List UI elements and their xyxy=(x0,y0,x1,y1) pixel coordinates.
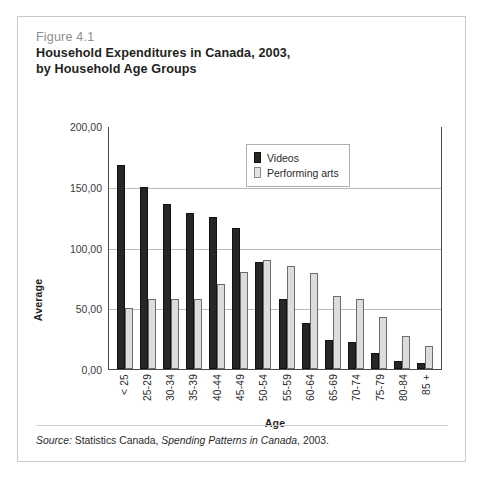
bar-performing-arts xyxy=(310,273,318,369)
bar-videos xyxy=(255,262,263,369)
source-divider xyxy=(36,425,448,426)
bar-videos xyxy=(140,187,148,369)
x-axis-tick-labels: < 2525-2930-3435-3940-4445-4950-5455-596… xyxy=(108,372,442,420)
bar-group xyxy=(368,127,391,369)
bar-performing-arts xyxy=(356,299,364,369)
y-axis-tick: 50,00 xyxy=(76,303,102,315)
x-axis-tick-label: 45-49 xyxy=(235,374,246,401)
source-text-2: , 2003. xyxy=(297,435,329,446)
figure-title-line-1: Household Expenditures in Canada, 2003, xyxy=(36,46,436,62)
x-axis-tick-label: 75-79 xyxy=(374,374,385,401)
bar-videos xyxy=(394,361,402,370)
y-axis-tick: 150,00 xyxy=(70,182,102,194)
bar-performing-arts xyxy=(379,317,387,369)
bar-performing-arts xyxy=(125,308,133,369)
bar-performing-arts xyxy=(217,284,225,369)
y-axis-tick: 0,00 xyxy=(82,364,102,376)
x-axis-tick: 65-69 xyxy=(322,372,345,420)
bar-group xyxy=(391,127,414,369)
bar-performing-arts xyxy=(333,296,341,369)
source-publication: Spending Patterns in Canada xyxy=(161,435,297,446)
x-axis-tick-label: 25-29 xyxy=(141,374,152,401)
figure-number: Figure 4.1 xyxy=(36,29,436,45)
bar-group xyxy=(159,127,182,369)
legend-item: Performing arts xyxy=(254,165,339,180)
bar-videos xyxy=(417,363,425,369)
figure-title: Household Expenditures in Canada, 2003, … xyxy=(36,46,436,77)
bar-performing-arts xyxy=(194,299,202,369)
x-axis-tick-label: 55-59 xyxy=(281,374,292,401)
x-axis-tick-label: 85 + xyxy=(421,374,432,395)
y-axis-tick: 200,00 xyxy=(70,121,102,133)
bar-videos xyxy=(163,204,171,369)
x-axis-tick: 60-64 xyxy=(298,372,321,420)
legend-label: Performing arts xyxy=(267,167,339,179)
bar-group xyxy=(182,127,205,369)
bar-videos xyxy=(209,217,217,369)
bar-performing-arts xyxy=(425,346,433,369)
bar-videos xyxy=(325,340,333,369)
chart: Average 200,00150,00100,0050,000,00 < 25… xyxy=(36,105,450,405)
x-axis-tick: 70-74 xyxy=(345,372,368,420)
legend-swatch-performing-arts xyxy=(254,167,261,178)
x-axis-tick-label: 70-74 xyxy=(351,374,362,401)
bar-videos xyxy=(186,213,194,369)
bar-performing-arts xyxy=(263,260,271,369)
bar-videos xyxy=(232,228,240,369)
x-axis-tick-label: 60-64 xyxy=(304,374,315,401)
x-axis-tick: 85 + xyxy=(415,372,438,420)
x-axis-tick: 55-59 xyxy=(275,372,298,420)
bar-videos xyxy=(279,299,287,369)
x-axis-tick-label: 35-39 xyxy=(188,374,199,401)
bar-videos xyxy=(371,353,379,369)
bar-videos xyxy=(117,165,125,369)
bar-performing-arts xyxy=(171,299,179,369)
legend-swatch-videos xyxy=(254,152,261,163)
bar-group xyxy=(414,127,437,369)
x-axis-tick: 50-54 xyxy=(252,372,275,420)
figure-card: Figure 4.1 Household Expenditures in Can… xyxy=(17,16,466,462)
x-axis-tick-label: 50-54 xyxy=(258,374,269,401)
x-axis-tick-label: 40-44 xyxy=(211,374,222,401)
bar-group xyxy=(136,127,159,369)
bar-performing-arts xyxy=(287,266,295,369)
x-axis-tick: < 25 xyxy=(112,372,135,420)
x-axis-tick: 75-79 xyxy=(368,372,391,420)
x-axis-tick-label: < 25 xyxy=(118,374,129,395)
x-axis-label: Age xyxy=(108,417,442,429)
bar-performing-arts xyxy=(148,299,156,369)
y-axis-tick-labels: 200,00150,00100,0050,000,00 xyxy=(50,105,106,371)
x-axis-tick: 35-39 xyxy=(182,372,205,420)
bar-group xyxy=(206,127,229,369)
bar-videos xyxy=(348,342,356,369)
figure-heading: Figure 4.1 Household Expenditures in Can… xyxy=(36,29,436,77)
x-axis-tick: 25-29 xyxy=(135,372,158,420)
x-axis-tick: 40-44 xyxy=(205,372,228,420)
bar-group xyxy=(113,127,136,369)
figure-title-line-2: by Household Age Groups xyxy=(36,62,436,78)
x-axis-tick-label: 80-84 xyxy=(398,374,409,401)
x-axis-tick: 45-49 xyxy=(228,372,251,420)
source-text-1: Statistics Canada, xyxy=(72,435,162,446)
x-axis-tick-label: 30-34 xyxy=(165,374,176,401)
chart-legend: VideosPerforming arts xyxy=(246,144,350,187)
legend-item: Videos xyxy=(254,150,339,165)
bar-performing-arts xyxy=(402,336,410,369)
y-axis-tick: 100,00 xyxy=(70,243,102,255)
legend-label: Videos xyxy=(267,152,299,164)
source-label: Source: xyxy=(36,435,72,446)
x-axis-tick-label: 65-69 xyxy=(328,374,339,401)
x-axis-tick: 30-34 xyxy=(159,372,182,420)
source-note: Source: Statistics Canada, Spending Patt… xyxy=(36,435,329,446)
x-axis-tick: 80-84 xyxy=(391,372,414,420)
bar-performing-arts xyxy=(240,272,248,369)
bar-videos xyxy=(302,323,310,369)
y-axis-label: Average xyxy=(32,255,44,345)
